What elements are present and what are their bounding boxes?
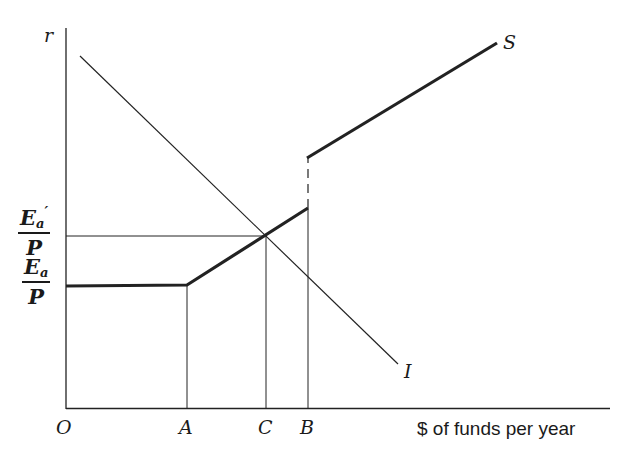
x-tick-c: C bbox=[258, 418, 273, 437]
diagram-canvas bbox=[0, 0, 643, 457]
y-tick-numerator: Ea bbox=[22, 256, 50, 281]
y-tick-ea-over-p: Ea P bbox=[22, 256, 50, 307]
supply-curve-label: S bbox=[503, 33, 516, 52]
supply-curve-upper bbox=[307, 43, 497, 158]
y-tick-ea-prime-over-p: Ea′ P bbox=[18, 205, 50, 258]
x-axis-label: $ of funds per year bbox=[417, 419, 575, 438]
x-tick-a: A bbox=[179, 418, 193, 437]
y-tick-denominator: P bbox=[28, 283, 44, 307]
supply-curve-lower bbox=[66, 208, 308, 286]
y-axis-label: r bbox=[44, 26, 53, 45]
investment-curve bbox=[80, 56, 398, 364]
y-tick-numerator: Ea′ bbox=[18, 205, 50, 232]
origin-label: O bbox=[56, 418, 72, 437]
investment-curve-label: I bbox=[404, 362, 412, 381]
x-tick-b: B bbox=[300, 418, 314, 437]
